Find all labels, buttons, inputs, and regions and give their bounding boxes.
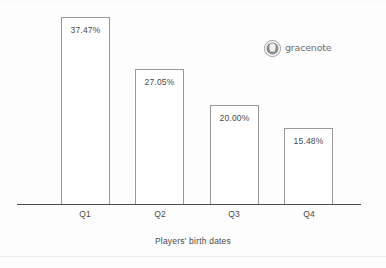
bar-q4: 15.48% [284,128,333,205]
x-tick-label-q2: Q2 [130,209,190,219]
gracenote-logo: gracenote [264,36,354,60]
gracenote-name: gracenote [285,43,331,53]
bar-q1: 37.47% [61,17,110,205]
bar-value-label: 27.05% [136,77,183,87]
bar-value-label: 20.00% [211,113,258,123]
x-tick-label-q1: Q1 [55,209,115,219]
x-tick-label-q3: Q3 [204,209,264,219]
bar-q3: 20.00% [210,105,259,205]
x-axis-title: Players' birth dates [0,236,386,246]
x-tick-label-q4: Q4 [279,209,339,219]
gracenote-wordmark: gracenote [285,43,331,54]
x-axis-line [17,204,361,205]
scan-bottom-rule [0,256,386,257]
gracenote-circle-icon [264,40,281,57]
bar-value-label: 15.48% [285,136,332,146]
bar-value-label: 37.47% [62,25,109,35]
bar-chart: 37.47% 27.05% 20.00% 15.48% Q1 Q2 Q3 Q4 … [0,0,386,268]
bar-q2: 27.05% [135,69,184,205]
